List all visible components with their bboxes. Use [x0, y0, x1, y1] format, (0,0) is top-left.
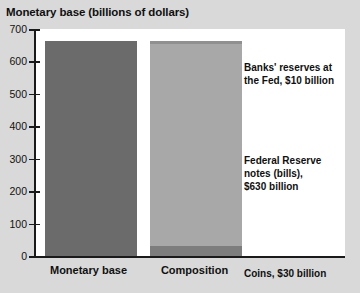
annotation-coins: Coins, $30 billion [244, 268, 360, 281]
chart-title: Monetary base (billions of dollars) [6, 6, 189, 18]
plot-area: Banks' reserves at the Fed, $10 billion … [36, 29, 345, 256]
y-tick-label: 100 [1, 218, 27, 230]
chart-figure: Monetary base (billions of dollars) Bank… [0, 0, 360, 293]
y-tick-label: 600 [1, 55, 27, 67]
y-axis-tick [29, 94, 40, 96]
y-tick-label: 200 [1, 185, 27, 197]
y-axis-tick [29, 61, 40, 63]
y-axis-tick [29, 256, 40, 258]
annotation-federal-reserve-notes: Federal Reserve notes (bills), $630 bill… [244, 155, 360, 193]
y-axis-tick-labels: 700 600 500 400 300 200 100 0 [0, 0, 27, 293]
bar-monetary-base [45, 41, 137, 256]
x-axis-line [34, 256, 345, 258]
y-tick-label: 700 [1, 23, 27, 35]
x-axis-category-label-composition: Composition [142, 264, 247, 276]
y-axis-tick [29, 224, 40, 226]
bar-segment-coins [150, 246, 242, 256]
y-tick-label: 400 [1, 120, 27, 132]
y-axis-tick [29, 159, 40, 161]
bar-composition-stack [150, 41, 242, 256]
y-axis-tick [29, 29, 40, 31]
bar-segment-federal-reserve-notes [150, 44, 242, 247]
annotation-bank-reserves: Banks' reserves at the Fed, $10 billion [244, 62, 360, 88]
y-tick-label: 300 [1, 153, 27, 165]
y-axis-tick [29, 126, 40, 128]
bar-segment-bank-reserves [150, 41, 242, 44]
y-tick-label: 0 [1, 250, 27, 262]
y-axis-tick [29, 191, 40, 193]
x-axis-category-label-monetary-base: Monetary base [36, 264, 141, 276]
y-tick-label: 500 [1, 88, 27, 100]
